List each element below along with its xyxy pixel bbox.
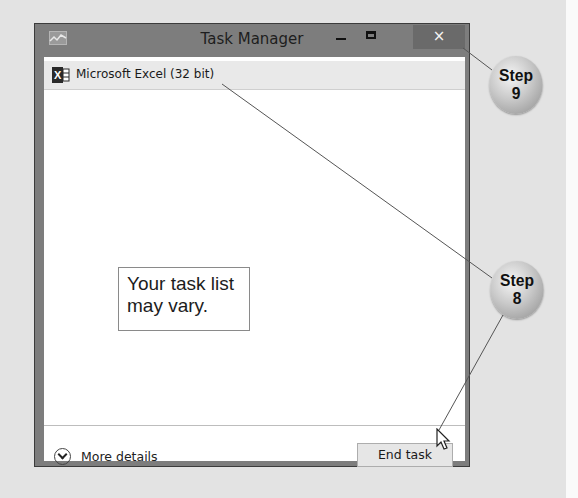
step-word: Step [490,272,543,290]
callout-note: Your task list may vary. [118,267,250,331]
step-number: 8 [490,290,543,308]
task-list-area: X Microsoft Excel (32 bit) More details … [44,57,465,461]
close-icon: × [433,27,446,45]
task-manager-window: Task Manager × X Microsoft Excel (32 bit… [34,23,470,467]
mouse-cursor-icon [436,428,452,452]
step-word: Step [489,67,542,85]
more-details-toggle[interactable]: More details [54,445,158,467]
chevron-down-icon [54,448,71,465]
task-label: Microsoft Excel (32 bit) [76,67,214,81]
note-line-1: Your task list [127,273,249,295]
step-8-badge: Step 8 [490,261,543,319]
window-title: Task Manager [35,30,469,48]
footer-divider [44,425,465,426]
minimize-button[interactable] [327,25,357,49]
task-row-excel[interactable]: X Microsoft Excel (32 bit) [44,61,465,90]
note-line-2: may vary. [127,295,249,317]
more-details-label: More details [81,449,158,464]
step-number: 9 [489,85,542,103]
excel-icon: X [52,67,70,83]
close-button[interactable]: × [413,25,465,49]
maximize-button[interactable] [357,25,387,49]
svg-text:X: X [54,69,62,81]
page-edge [566,0,578,498]
step-9-badge: Step 9 [489,56,542,114]
title-bar[interactable]: Task Manager × [35,24,469,57]
